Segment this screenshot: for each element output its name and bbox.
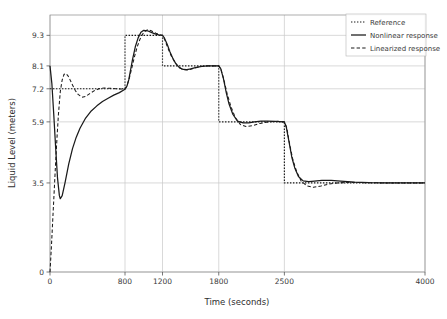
x-axis-title: Time (seconds)	[204, 297, 270, 307]
y-tick-label: 3.5	[32, 179, 44, 188]
x-tick-label: 1800	[209, 277, 228, 286]
chart-legend: ReferenceNonlinear responseLinearized re…	[346, 14, 440, 56]
y-tick-label: 9.3	[32, 31, 44, 40]
y-axis-title: Liquid Level (meters)	[7, 98, 17, 188]
legend-label: Nonlinear response	[370, 32, 438, 40]
x-tick-label: 800	[118, 277, 133, 286]
x-tick-label: 2500	[275, 277, 294, 286]
legend-label: Linearized response	[370, 45, 440, 53]
chart-figure: 08001200180025004000 03.55.97.28.19.3 Ti…	[0, 0, 447, 319]
legend-label: Reference	[370, 19, 405, 27]
x-tick-label: 0	[48, 277, 53, 286]
x-tick-label: 1200	[153, 277, 172, 286]
line-chart: 08001200180025004000 03.55.97.28.19.3 Ti…	[0, 0, 447, 319]
y-tick-label: 0	[39, 268, 44, 277]
y-tick-label: 5.9	[32, 118, 44, 127]
x-tick-label: 4000	[415, 277, 434, 286]
y-tick-label: 7.2	[32, 85, 44, 94]
y-tick-label: 8.1	[32, 62, 44, 71]
